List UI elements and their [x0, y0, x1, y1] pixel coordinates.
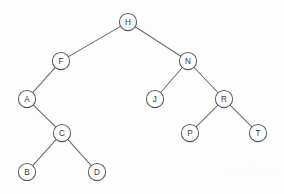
node-label: R — [221, 95, 227, 104]
node-label: H — [125, 18, 131, 27]
node-label: F — [58, 57, 63, 66]
tree-node[interactable]: P — [181, 124, 198, 141]
node-label: J — [153, 95, 157, 104]
tree-node[interactable]: N — [179, 52, 196, 69]
tree-edge — [33, 139, 57, 165]
tree-node[interactable]: J — [146, 90, 163, 107]
tree-edge — [33, 67, 56, 92]
tree-edge — [161, 67, 183, 92]
node-label: A — [24, 95, 30, 104]
node-label: B — [24, 168, 30, 177]
tree-edge — [68, 139, 92, 165]
node-label: N — [185, 57, 191, 66]
tree-edge — [33, 105, 56, 127]
tree-node[interactable]: F — [52, 52, 69, 69]
tree-edge — [135, 27, 181, 57]
tree-edge — [68, 26, 120, 56]
watermark: ratioleina — [224, 164, 278, 180]
tree-node[interactable]: D — [88, 163, 105, 180]
nodes-layer: HFNAJRCPTBD — [18, 13, 266, 180]
tree-node[interactable]: B — [18, 163, 35, 180]
tree-node[interactable]: R — [215, 90, 232, 107]
tree-node[interactable]: A — [18, 90, 35, 107]
node-label: D — [94, 168, 100, 177]
tree-node[interactable]: T — [249, 124, 266, 141]
node-label: P — [187, 129, 193, 138]
tree-node[interactable]: H — [119, 13, 136, 30]
tree-edge — [194, 67, 218, 93]
tree-node[interactable]: C — [53, 124, 70, 141]
node-label: T — [255, 129, 260, 138]
tree-edge — [230, 105, 252, 127]
tree-edge — [196, 105, 218, 127]
node-label: C — [59, 129, 65, 138]
